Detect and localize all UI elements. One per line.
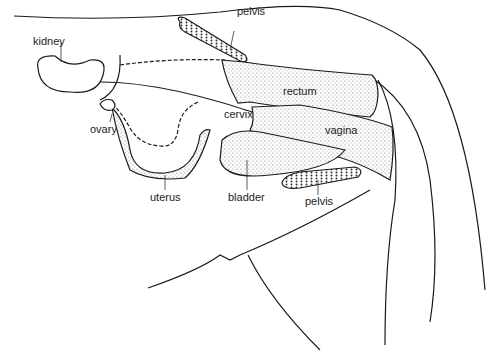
tail-curve-1 [372,78,435,322]
label-kidney: kidney [33,36,65,47]
pelvis-bone-top [178,17,247,62]
label-vagina: vagina [325,125,357,136]
tail-curve-2 [378,80,396,345]
anatomy-drawing [0,0,503,354]
label-ovary: ovary [90,124,117,135]
anatomy-diagram: kidney pelvis rectum cervix vagina ovary… [0,0,503,354]
body-wall-arc [100,55,120,100]
belly-outline [148,190,370,288]
label-uterus: uterus [150,192,181,203]
leg-outline [248,255,320,350]
label-cervix: cervix [224,109,253,120]
uterus-shape [112,108,210,179]
label-pelvis-top: pelvis [237,6,265,17]
kidney-shape [38,56,104,92]
label-rectum: rectum [283,86,317,97]
label-pelvis-bottom: pelvis [305,196,333,207]
label-bladder: bladder [228,192,265,203]
ovary-shape [100,100,115,111]
